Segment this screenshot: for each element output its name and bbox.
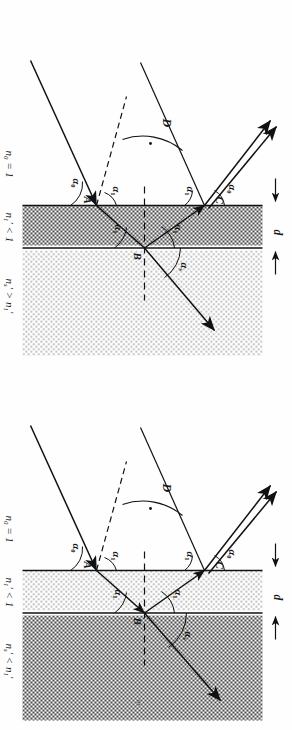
angle-label-alpha0-exit: α0 <box>225 184 236 193</box>
medium-label-ambient: n0 = 1 <box>1 515 14 542</box>
angle-label-alpha1-b-upper: α1 <box>171 224 182 233</box>
medium-label-substrate: ns′ > n1′ <box>1 278 14 313</box>
diagram-panel-substrate-denser: A B C α0 α1 α1 α0 α1 α1 αs <box>0 0 292 365</box>
thickness-label-d: d <box>271 594 283 600</box>
angle-label-alpha1-a: α1 <box>109 551 120 560</box>
point-label-b: B <box>131 252 142 259</box>
point-label-a: A <box>81 196 92 203</box>
medium-label-ambient: n0 = 1 <box>1 150 14 177</box>
medium-label-film: n1′ < 1 <box>1 212 14 242</box>
substrate-layer-top <box>22 250 262 355</box>
angle-label-alpha1-b-lower: α1 <box>111 224 122 233</box>
emergent-ray-1-bottom <box>204 485 270 570</box>
angle-label-deviation: D <box>160 483 172 492</box>
film-layer-bottom <box>22 570 262 610</box>
incident-ray-bottom <box>30 425 96 570</box>
medium-label-film: n1′ < 1 <box>1 577 14 607</box>
angle-label-alphas: αs <box>177 262 188 270</box>
incident-ray-top <box>30 60 96 205</box>
angle-label-alpha1-a: α1 <box>109 186 120 195</box>
deviation-construction-line-top <box>140 62 204 205</box>
medium-label-substrate: ns′ < n1′ <box>1 643 14 678</box>
angle-label-alpha1-c: α1 <box>183 551 194 560</box>
deviation-construction-line-bottom <box>140 427 204 570</box>
figure-root: A B C α0 α1 α1 α0 α1 α1 αs <box>0 0 292 730</box>
deviation-dot-bottom <box>149 507 152 510</box>
point-label-c: C <box>213 196 224 203</box>
diagram-panel-substrate-rarer: A B C α0 α1 α1 α0 α1 α1 αs <box>0 365 292 730</box>
angle-label-alpha1-b-upper: α1 <box>171 589 182 598</box>
angle-label-alpha1-b-lower: α1 <box>111 589 122 598</box>
ray-diagram-svg-top <box>0 0 292 365</box>
film-layer-top <box>22 205 262 245</box>
figure-caption-marker: m <box>135 700 143 705</box>
deviation-arc-bottom <box>122 501 182 515</box>
angle-label-alpha1-c: α1 <box>183 186 194 195</box>
point-label-a: A <box>81 561 92 568</box>
deviation-dot-top <box>149 142 152 145</box>
deviation-arc-top <box>122 136 182 150</box>
point-label-c: C <box>213 561 224 568</box>
angle-label-deviation: D <box>160 118 172 127</box>
emergent-ray-1-top <box>204 120 270 205</box>
angle-label-alpha0-exit: α0 <box>225 549 236 558</box>
angle-label-alpha0-incident: α0 <box>69 543 80 552</box>
thickness-label-d: d <box>271 229 283 235</box>
ray-diagram-svg-bottom <box>0 365 292 730</box>
angle-label-alpha0-incident: α0 <box>69 178 80 187</box>
point-label-b: B <box>131 617 142 624</box>
angle-label-alphas: αs <box>181 631 192 639</box>
